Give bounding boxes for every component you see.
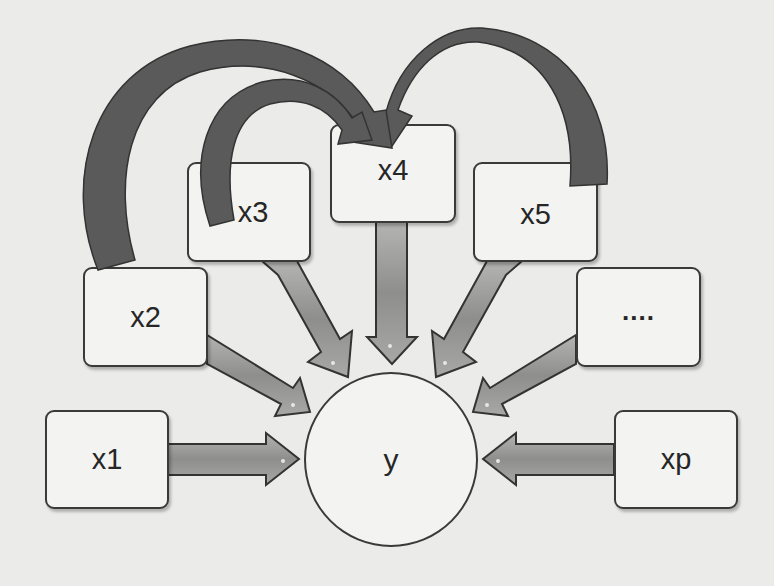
node-x3: x3 bbox=[187, 162, 311, 262]
arrow-x5-to-y bbox=[432, 261, 522, 377]
node-x4: x4 bbox=[330, 124, 456, 223]
node-xp-label: xp bbox=[661, 443, 692, 476]
node-xp: xp bbox=[614, 410, 738, 509]
node-x2-label: x2 bbox=[130, 301, 161, 334]
node-x2: x2 bbox=[83, 267, 208, 367]
arrow-xp-to-y bbox=[483, 433, 614, 485]
node-x3-label: x3 bbox=[238, 196, 269, 229]
node-y: y bbox=[304, 372, 478, 547]
arrow-x3-to-y bbox=[262, 261, 352, 377]
arrow-x1-to-y bbox=[168, 433, 299, 485]
node-x1-label: x1 bbox=[92, 443, 123, 476]
node-x4-label: x4 bbox=[378, 154, 409, 187]
node-x5-label: x5 bbox=[520, 198, 551, 231]
diagram-canvas: x1 x2 x3 x4 x5 .... xp y bbox=[0, 0, 774, 586]
node-x1: x1 bbox=[45, 410, 169, 509]
node-dots-label: .... bbox=[622, 296, 655, 327]
arrow-x4-to-y bbox=[367, 222, 417, 364]
node-x5: x5 bbox=[473, 162, 598, 262]
node-y-label: y bbox=[384, 443, 399, 477]
node-dots: .... bbox=[576, 267, 701, 367]
